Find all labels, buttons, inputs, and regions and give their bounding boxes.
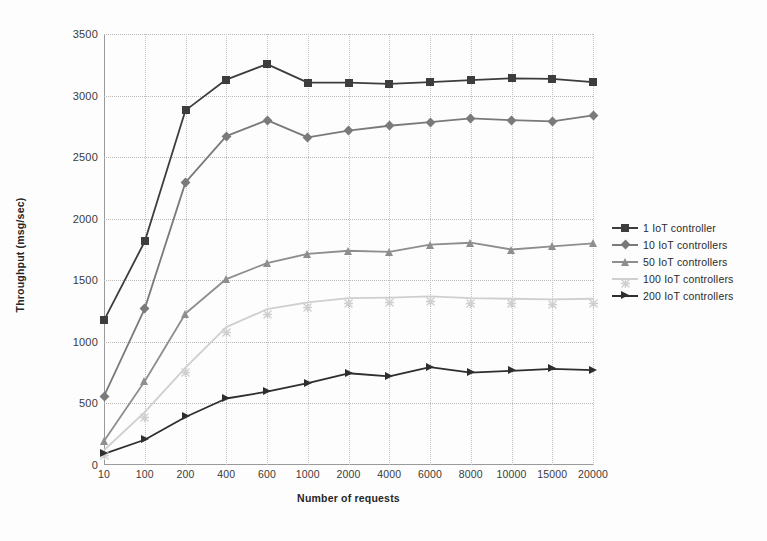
data-point-marker — [426, 241, 434, 249]
series-line — [104, 115, 593, 396]
data-point-marker — [345, 369, 353, 377]
x-axis-tick-labels: 1010020040060010002000400060008000100001… — [104, 468, 593, 488]
data-point-marker — [385, 372, 393, 380]
data-point-marker — [466, 294, 475, 303]
data-point-marker — [426, 292, 435, 301]
data-point-marker — [385, 293, 394, 302]
data-point-marker — [589, 366, 597, 374]
legend-item[interactable]: 50 IoT controllers — [612, 253, 762, 270]
y-axis-tick-label: 1500 — [73, 274, 98, 286]
legend-label: 100 IoT controllers — [643, 273, 734, 285]
legend-marker — [621, 224, 629, 232]
y-axis-tick-labels: 0500100015002000250030003500 — [46, 34, 98, 465]
data-point-marker — [548, 75, 556, 83]
data-point-marker — [303, 250, 311, 258]
data-point-marker — [467, 368, 475, 376]
data-point-marker — [426, 363, 434, 371]
y-axis-tick-label: 1000 — [73, 336, 98, 348]
data-point-marker — [589, 294, 598, 303]
data-point-marker — [548, 295, 557, 304]
legend-item[interactable]: 10 IoT controllers — [612, 236, 762, 253]
x-axis-tick-label: 10000 — [496, 468, 526, 480]
y-axis-tick-label: 500 — [79, 397, 98, 409]
y-axis-tick-label: 3000 — [73, 90, 98, 102]
legend: 1 IoT controller10 IoT controllers50 IoT… — [612, 219, 762, 304]
plot-area — [104, 34, 593, 465]
legend-label: 1 IoT controller — [643, 222, 716, 234]
series-line — [104, 367, 593, 454]
x-axis-tick-label: 8000 — [459, 468, 483, 480]
data-point-marker — [222, 76, 230, 84]
data-point-marker — [548, 242, 556, 250]
data-point-marker — [426, 78, 434, 86]
data-point-marker — [508, 74, 516, 82]
data-point-marker — [507, 294, 516, 303]
data-point-marker — [345, 79, 353, 87]
legend-item[interactable]: 200 IoT controllers — [612, 287, 762, 304]
data-point-marker — [385, 80, 393, 88]
x-axis-tick-label: 100 — [136, 468, 154, 480]
data-point-marker — [140, 377, 148, 385]
legend-item[interactable]: 100 IoT controllers — [612, 270, 762, 287]
data-point-marker — [385, 248, 393, 256]
data-point-marker — [263, 387, 271, 395]
x-axis-tick-label: 15000 — [537, 468, 567, 480]
x-axis-tick-label: 1000 — [296, 468, 320, 480]
data-point-marker — [303, 298, 312, 307]
legend-item[interactable]: 1 IoT controller — [612, 219, 762, 236]
x-axis-title: Number of requests — [104, 492, 593, 504]
data-point-marker — [467, 76, 475, 84]
data-point-marker — [222, 323, 231, 332]
data-point-marker — [466, 239, 474, 247]
data-point-marker — [508, 366, 516, 374]
data-point-marker — [100, 316, 108, 324]
legend-marker — [621, 274, 630, 283]
data-point-marker — [589, 78, 597, 86]
legend-swatch — [612, 256, 638, 268]
x-axis-tick-label: 6000 — [418, 468, 442, 480]
data-point-marker — [263, 60, 271, 68]
x-axis-tick-label: 20000 — [578, 468, 608, 480]
data-point-marker — [182, 412, 190, 420]
data-point-marker — [304, 379, 312, 387]
legend-label: 50 IoT controllers — [643, 256, 728, 268]
data-point-marker — [100, 437, 108, 445]
x-axis-tick-label: 600 — [258, 468, 276, 480]
data-point-marker — [181, 363, 190, 372]
data-point-marker — [182, 106, 190, 114]
series-line — [104, 64, 593, 320]
data-point-marker — [181, 310, 189, 318]
legend-marker — [620, 240, 630, 250]
y-axis-title: Throughput (msg/sec) — [14, 180, 26, 330]
series-line — [104, 243, 593, 441]
data-point-marker — [304, 79, 312, 87]
legend-swatch — [612, 239, 638, 251]
y-axis-tick-label: 2500 — [73, 151, 98, 163]
data-point-marker — [344, 294, 353, 303]
data-point-marker — [344, 247, 352, 255]
data-point-marker — [548, 364, 556, 372]
legend-label: 200 IoT controllers — [643, 290, 734, 302]
legend-swatch — [612, 273, 638, 285]
data-point-marker — [589, 239, 597, 247]
data-point-marker — [141, 435, 149, 443]
x-axis-tick-label: 4000 — [377, 468, 401, 480]
legend-marker — [621, 258, 629, 266]
data-point-marker — [222, 275, 230, 283]
x-axis-tick-label: 10 — [98, 468, 110, 480]
data-point-marker — [141, 237, 149, 245]
chart-figure: Throughput (msg/sec) 0500100015002000250… — [0, 0, 767, 541]
data-point-marker — [263, 259, 271, 267]
legend-label: 10 IoT controllers — [643, 239, 728, 251]
x-axis-tick-label: 2000 — [336, 468, 360, 480]
data-point-marker — [140, 408, 149, 417]
legend-swatch — [612, 290, 638, 302]
x-axis-tick-label: 200 — [176, 468, 194, 480]
y-axis-tick-label: 3500 — [73, 28, 98, 40]
y-axis-tick-label: 2000 — [73, 213, 98, 225]
data-point-marker — [100, 449, 108, 457]
data-point-marker — [507, 246, 515, 254]
gridline-vertical — [593, 34, 594, 465]
legend-marker — [621, 291, 629, 299]
data-point-marker — [263, 305, 272, 314]
